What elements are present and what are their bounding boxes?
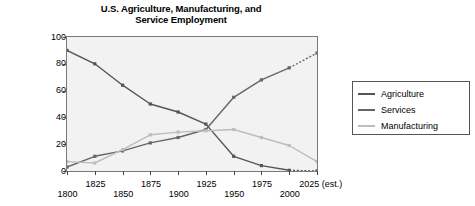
plot-lines [67,37,317,171]
legend-item-manufacturing[interactable]: Manufacturing [358,118,469,134]
x-tick-label: 1825 [85,180,105,189]
x-tick-mark [95,171,96,175]
data-point-marker [121,148,124,151]
x-tick-label: 1925 [196,180,216,189]
series-line-manufacturing [67,130,317,164]
data-point-marker [177,110,180,113]
data-point-marker [204,129,207,132]
data-point-marker [204,123,207,126]
x-tick-label: 1975 [252,180,272,189]
data-point-marker [149,102,152,105]
data-point-marker [67,160,69,163]
x-tick-mark [178,171,179,175]
data-point-marker [177,131,180,134]
legend-label-manufacturing: Manufacturing [381,121,438,131]
legend-label-agriculture: Agriculture [381,89,424,99]
x-tick-label: 1850 [113,190,133,199]
x-tick-label: 1800 [58,190,78,199]
data-point-marker [93,161,96,164]
y-axis-ticks: 020406080100 [36,30,66,180]
chart-title: U.S. Agriculture, Manufacturing, and Ser… [66,3,296,25]
x-tick-mark [67,171,68,175]
x-tick-mark [150,171,151,175]
data-point-marker [232,128,235,131]
chart-title-line-1: U.S. Agriculture, Manufacturing, and [66,3,296,14]
chart-title-line-2: Service Employment [66,14,296,25]
legend-item-services[interactable]: Services [358,102,469,118]
legend-swatch-agriculture [358,93,375,95]
series-line-agriculture [67,50,289,170]
data-point-marker [149,133,152,136]
x-tick-mark [317,171,318,175]
data-point-marker [93,155,96,158]
x-tick-mark [261,171,262,175]
data-point-marker [315,160,317,163]
x-tick-label: 1950 [224,190,244,199]
legend-swatch-manufacturing [358,125,375,127]
series-line-agriculture [289,170,317,171]
series-line-services [67,68,289,167]
chart-figure: U.S. Agriculture, Manufacturing, and Ser… [0,0,475,206]
legend-swatch-services [358,109,375,111]
data-point-marker [93,62,96,65]
x-tick-mark [206,171,207,175]
data-point-marker [232,155,235,158]
data-point-marker [260,136,263,139]
x-tick-label: 1875 [141,180,161,189]
x-tick-label: 2000 [280,190,300,199]
plot-area [66,36,318,172]
x-tick-mark [123,171,124,175]
series-line-services [289,53,317,68]
x-tick-label: 2025 (est.) [299,180,342,189]
data-point-marker [315,52,317,55]
legend-label-services: Services [381,105,416,115]
data-point-marker [260,78,263,81]
data-point-marker [288,66,291,69]
chart-legend: Agriculture Services Manufacturing [352,81,470,135]
data-point-marker [288,144,291,147]
data-point-marker [67,165,69,168]
data-point-marker [121,84,124,87]
x-tick-mark [234,171,235,175]
legend-item-agriculture[interactable]: Agriculture [358,86,469,102]
x-tick-mark [289,171,290,175]
data-point-marker [177,136,180,139]
data-point-marker [260,164,263,167]
x-tick-label: 1900 [169,190,189,199]
data-point-marker [149,141,152,144]
data-point-marker [67,49,69,52]
data-point-marker [232,96,235,99]
